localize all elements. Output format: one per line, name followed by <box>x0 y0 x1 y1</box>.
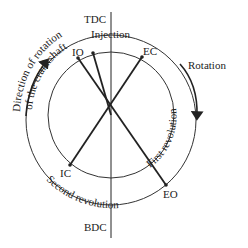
injection-point <box>91 51 95 55</box>
ec-ic-line <box>70 57 142 165</box>
ic-label: IC <box>60 167 71 179</box>
io-label: IO <box>72 46 84 58</box>
rotation-label: Rotation <box>188 59 226 71</box>
eo-point <box>164 183 168 187</box>
ec-label: EC <box>143 45 157 57</box>
injection-label: Injection <box>91 28 131 40</box>
valve-timing-diagram: TDC Injection IO EC IC EO BDC Rotation D… <box>0 0 248 248</box>
eo-label: EO <box>163 188 178 200</box>
rotation-arrow-icon <box>180 64 197 116</box>
bdc-label: BDC <box>84 221 107 233</box>
tdc-label: TDC <box>84 13 106 25</box>
first-revolution-label: First revolution <box>144 108 179 170</box>
